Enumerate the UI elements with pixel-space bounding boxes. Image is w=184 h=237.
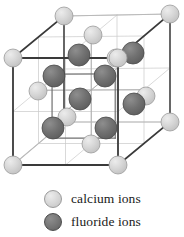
legend-item-calcium: calcium ions — [44, 188, 141, 210]
calcium-ion — [84, 26, 102, 44]
calcium-ion-circle — [109, 156, 127, 174]
calcium-ion — [4, 156, 22, 174]
calcium-ion-circle — [84, 26, 102, 44]
calcium-ion-circle — [161, 5, 179, 23]
fluoride-ion — [69, 88, 91, 110]
calcium-ion — [109, 156, 127, 174]
fluoride-ion — [42, 117, 64, 139]
crystal-lattice-diagram — [0, 0, 184, 186]
legend-item-fluoride: fluoride ions — [44, 211, 141, 233]
fluorite-structure-figure: calcium ions fluoride ions — [0, 0, 184, 237]
legend-label-fluoride: fluoride ions — [71, 214, 141, 230]
calcium-ion — [55, 7, 73, 25]
fluoride-ion — [68, 44, 90, 66]
calcium-ion — [161, 113, 179, 131]
legend: calcium ions fluoride ions — [0, 186, 184, 237]
fluoride-ion-circle — [95, 117, 117, 139]
calcium-ion-circle — [161, 113, 179, 131]
calcium-ion — [82, 135, 100, 153]
calcium-ion-circle — [29, 82, 47, 100]
fluoride-ion-circle — [68, 44, 90, 66]
fluoride-ion — [123, 93, 145, 115]
calcium-ion — [161, 5, 179, 23]
calcium-ion-circle — [4, 49, 22, 67]
fluoride-ion-circle — [42, 117, 64, 139]
fluoride-ion-circle — [123, 93, 145, 115]
calcium-ion — [29, 82, 47, 100]
calcium-ion-swatch — [44, 190, 62, 208]
fluoride-ion — [94, 65, 116, 87]
fluoride-ion — [95, 117, 117, 139]
calcium-ion — [4, 49, 22, 67]
fluoride-ion — [43, 65, 65, 87]
calcium-ion — [109, 49, 127, 67]
calcium-ion-circle — [4, 156, 22, 174]
legend-label-calcium: calcium ions — [71, 191, 141, 207]
fluoride-ion-swatch — [44, 213, 62, 231]
fluoride-ion-circle — [94, 65, 116, 87]
calcium-ion-circle — [82, 135, 100, 153]
calcium-ion-circle — [109, 49, 127, 67]
fluoride-ion-circle — [43, 65, 65, 87]
fluoride-ion-circle — [69, 88, 91, 110]
calcium-ion-circle — [55, 7, 73, 25]
